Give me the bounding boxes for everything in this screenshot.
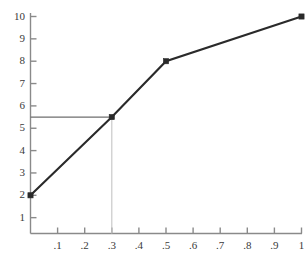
- x-axis-ticks: [58, 228, 302, 234]
- y-tick-label-8: 8: [2, 55, 25, 66]
- data-line-curve: [31, 17, 302, 196]
- y-tick-label-6: 6: [2, 100, 25, 111]
- x-tick-label-.5: .5: [154, 240, 178, 251]
- x-tick-label-.7: .7: [208, 240, 232, 251]
- y-tick-label-10: 10: [2, 11, 25, 22]
- y-tick-label-7: 7: [2, 78, 25, 89]
- data-marker-group: [28, 14, 304, 198]
- x-tick-label-.1: .1: [46, 240, 70, 251]
- data-point-marker-0: [28, 193, 33, 198]
- x-tick-label-.4: .4: [127, 240, 151, 251]
- x-tick-label-.6: .6: [181, 240, 205, 251]
- data-point-marker-1: [109, 114, 114, 119]
- y-tick-label-3: 3: [2, 167, 25, 178]
- chart-plot-area: [0, 0, 306, 262]
- y-tick-label-5: 5: [2, 122, 25, 133]
- x-tick-label-.2: .2: [73, 240, 97, 251]
- y-tick-label-1: 1: [2, 212, 25, 223]
- axes-group: [31, 13, 303, 234]
- x-tick-label-.9: .9: [262, 240, 286, 251]
- y-tick-label-9: 9: [2, 33, 25, 44]
- x-tick-label-.8: .8: [235, 240, 259, 251]
- chart-container: 12345678910 .1.2.3.4.5.6.7.8.91: [0, 0, 306, 262]
- y-tick-label-2: 2: [2, 189, 25, 200]
- data-point-marker-3: [299, 14, 304, 19]
- x-tick-label-.3: .3: [100, 240, 124, 251]
- x-tick-label-1: 1: [290, 240, 307, 251]
- data-point-marker-2: [163, 59, 168, 64]
- y-tick-label-4: 4: [2, 145, 25, 156]
- data-series-group: [31, 17, 302, 196]
